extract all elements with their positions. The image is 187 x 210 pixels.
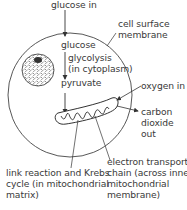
cell-surface-label: cell surface — [118, 18, 170, 29]
etc-label-1: electron transport — [107, 156, 187, 167]
pyruvate-label: pyruvate — [61, 77, 101, 88]
etc-label-3: mitochondrial — [107, 178, 169, 189]
link-reaction-leader — [71, 120, 78, 168]
out-label: out — [141, 128, 156, 139]
membrane-leader — [107, 33, 116, 46]
etc-leader — [95, 116, 110, 160]
membrane-label: membrane — [118, 29, 167, 40]
link-label-1: link reaction and Krebs — [6, 167, 109, 178]
oxygen-in-arrow — [117, 86, 141, 100]
glycolysis-label: glycolysis — [68, 52, 112, 63]
glucose-label: glucose — [61, 39, 96, 50]
etc-label-4: membrane) — [107, 189, 160, 200]
etc-label-2: chain (across inner — [107, 167, 187, 178]
glucose-in-label: glucose in — [51, 0, 97, 10]
nucleus — [22, 54, 54, 86]
co2-out-arrow — [117, 106, 138, 111]
in-cytoplasm-label: (in cytoplasm) — [68, 63, 133, 74]
link-label-2: cycle (in mitochondrial — [6, 178, 109, 189]
carbon-label: carbon — [141, 106, 172, 117]
link-label-3: matrix) — [6, 189, 39, 200]
dioxide-label: dioxide — [141, 117, 174, 128]
oxygen-in-label: oxygen in — [141, 80, 185, 91]
